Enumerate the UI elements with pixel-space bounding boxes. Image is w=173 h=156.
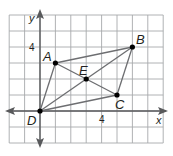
coordinate-plane: y x 4 4 A B C D E — [0, 0, 173, 156]
x-tick-4: 4 — [99, 114, 105, 125]
point-b — [130, 44, 135, 49]
segment-bc — [117, 47, 132, 95]
y-tick-4: 4 — [29, 42, 35, 53]
segment-da — [40, 63, 55, 111]
point-label-e: E — [79, 63, 88, 78]
x-axis-label: x — [155, 114, 162, 126]
point-label-c: C — [115, 97, 125, 112]
point-label-d: D — [27, 113, 36, 128]
y-axis-label: y — [28, 12, 36, 24]
point-label-b: B — [136, 32, 145, 47]
point-d — [37, 108, 42, 113]
point-label-a: A — [42, 49, 52, 64]
point-a — [53, 60, 58, 65]
